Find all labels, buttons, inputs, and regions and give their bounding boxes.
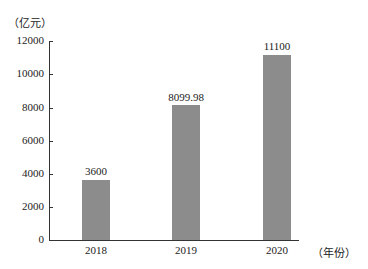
y-tick-label: 12000 [0,34,44,46]
value-label-2019: 8099.98 [156,91,216,103]
x-axis-line [49,240,299,241]
x-tick-label: 2019 [161,244,211,256]
bar-2020 [263,55,291,240]
x-tick-label: 2018 [71,244,121,256]
y-tick [49,41,53,42]
y-tick-label: 6000 [0,134,44,146]
y-tick-label: 0 [0,233,44,245]
y-tick [49,174,53,175]
y-axis-unit-label: （亿元） [8,14,52,30]
x-tick-label: 2020 [252,244,302,256]
y-tick [49,108,53,109]
y-tick-label: 2000 [0,200,44,212]
value-label-2018: 3600 [66,165,126,177]
y-tick [49,74,53,75]
y-tick-label: 8000 [0,101,44,113]
value-label-2020: 11100 [247,40,307,52]
y-tick [49,141,53,142]
bar-2018 [82,180,110,240]
y-tick-label: 10000 [0,67,44,79]
y-tick [49,207,53,208]
x-axis-unit-label: （年份） [312,244,356,260]
y-tick-label: 4000 [0,167,44,179]
bar-2019 [172,105,200,240]
